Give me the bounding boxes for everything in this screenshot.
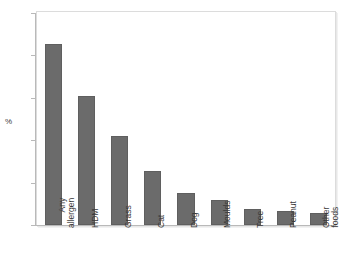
y-tick-mark [31, 55, 35, 56]
x-tick-label-line1: HDM [91, 209, 100, 228]
y-tick-mark [31, 183, 35, 184]
y-tick-mark [31, 98, 35, 99]
x-tick-label-text: Anyallergen [58, 198, 76, 228]
x-tick-label-line1: Peanut [289, 201, 298, 228]
x-tick-label-line1: Grass [124, 205, 133, 228]
x-tick-label-text: Moulds [223, 201, 232, 228]
x-tick-label-text: Grass [124, 205, 133, 228]
bar-chart-figure: % 0510152025 AnyallergenHDMGrassCatDogMo… [0, 0, 344, 264]
x-tick-label-text: Dog [190, 212, 199, 228]
x-tick-label-text: Peanut [289, 201, 298, 228]
y-axis-spine [35, 13, 36, 226]
x-tick-label-line1: Tree [256, 211, 265, 228]
x-tick-label-text: Cat [157, 215, 166, 228]
x-tick-label-line2: foods [331, 207, 340, 228]
x-tick-label-line1: Cat [157, 215, 166, 228]
bars-container [37, 12, 335, 225]
x-tick-label-line1: Dog [190, 212, 199, 228]
bar [78, 96, 95, 225]
x-axis-tick-labels: AnyallergenHDMGrassCatDogMouldsTreePeanu… [37, 228, 335, 264]
x-tick-label-line2: allergen [67, 198, 76, 228]
x-tick-label-text: Tree [256, 211, 265, 228]
y-tick-mark [31, 140, 35, 141]
y-tick-mark [31, 225, 35, 226]
y-axis-label: % [5, 118, 12, 126]
x-tick-label-text: HDM [91, 209, 100, 228]
x-tick-label-line1: Moulds [223, 201, 232, 228]
x-tick-label-text: Otherfoods [322, 207, 340, 228]
y-tick-mark [31, 13, 35, 14]
